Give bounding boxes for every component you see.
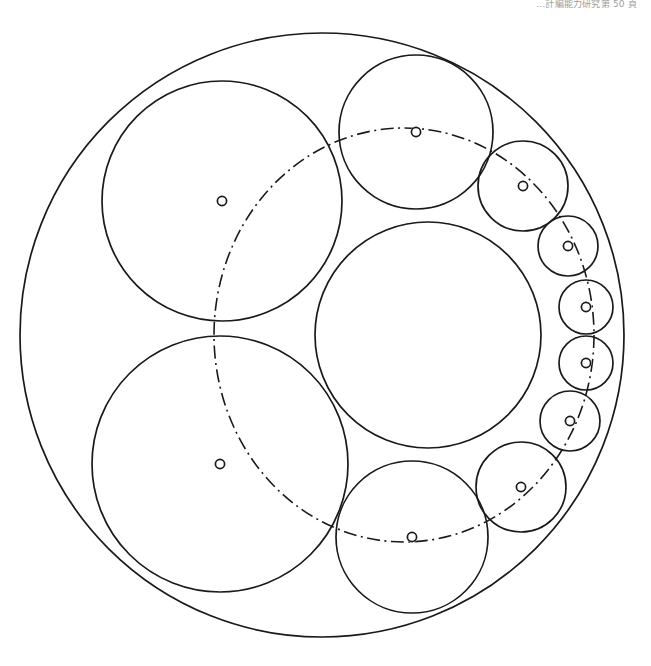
chain-circles-group [92, 55, 613, 613]
outer-boundary-group [20, 33, 624, 637]
center-locus-ellipse [214, 128, 594, 542]
steiner-chain-figure [0, 0, 651, 666]
outer-boundary-circle [20, 33, 624, 637]
inner-core-group [315, 222, 541, 448]
center-markers-group [215, 127, 592, 543]
inner-core-circle [315, 222, 541, 448]
center-locus-group [214, 128, 594, 542]
page-header-note: …計編能力研究第 50 頁 [536, 0, 637, 9]
figure-root: …計編能力研究第 50 頁 [0, 0, 651, 666]
